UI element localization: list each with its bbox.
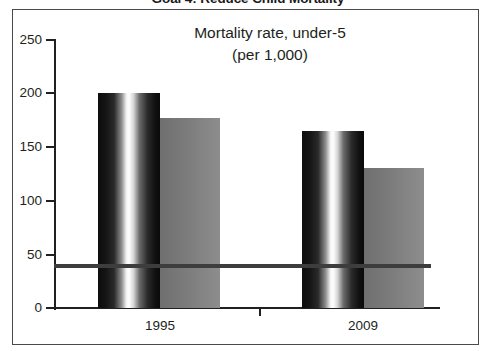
y-axis-label-250: 250 (6, 33, 42, 47)
target-reference-line (54, 264, 431, 268)
y-label-0-wrap: 0 (0, 301, 42, 315)
x-axis-label-2009: 2009 (318, 318, 408, 334)
y-tick-200 (46, 92, 55, 94)
y-label-100-wrap: 100 (0, 194, 42, 208)
y-axis-label-50: 50 (6, 248, 42, 262)
y-axis-label-100: 100 (6, 194, 42, 208)
chart-screenshot: Goal 4: Reduce Child Mortality Mortality… (0, 0, 496, 351)
y-label-50-wrap: 50 (0, 248, 42, 262)
bar-1995-dark (98, 93, 160, 308)
y-tick-250 (46, 39, 55, 41)
y-label-150-wrap: 150 (0, 140, 42, 154)
y-tick-100 (46, 200, 55, 202)
x-axis-label-1995: 1995 (115, 318, 205, 334)
y-axis-line (54, 39, 56, 310)
y-tick-0 (46, 307, 55, 309)
x-axis-tick-mid (259, 309, 261, 316)
bar-2009-dark (302, 131, 364, 308)
y-label-200-wrap: 200 (0, 86, 42, 100)
bar-2009-light (364, 168, 424, 308)
y-tick-50 (46, 254, 55, 256)
y-tick-150 (46, 146, 55, 148)
y-axis-label-0: 0 (6, 301, 42, 315)
plot-area: 250 200 150 100 50 0 1995 2009 (0, 0, 496, 351)
y-axis-label-200: 200 (6, 86, 42, 100)
bar-1995-light (160, 118, 220, 308)
y-label-250-wrap: 250 (0, 33, 42, 47)
y-axis-label-150: 150 (6, 140, 42, 154)
